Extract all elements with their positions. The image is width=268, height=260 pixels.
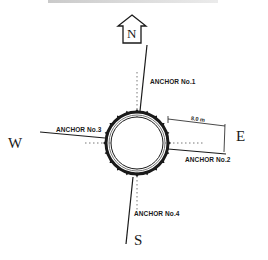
anchor-3-label: ANCHOR No.3: [56, 126, 102, 133]
west-label: W: [8, 135, 22, 152]
anchor-1-label: ANCHOR No.1: [150, 78, 196, 85]
anchor-line-2: [168, 149, 226, 154]
anchor-4-label: ANCHOR No.4: [134, 210, 180, 217]
anchor-2-label: ANCHOR No.2: [185, 156, 231, 163]
anchor-line-4: [126, 177, 133, 244]
buoy-ring: [103, 109, 171, 177]
south-label: S: [134, 232, 142, 249]
anchor-line-1: [140, 45, 147, 111]
north-letter: N: [127, 26, 136, 42]
anchor-layout-diagram: N E W S ANCHOR No.1 ANCHOR No.2 ANCHOR N…: [0, 0, 268, 260]
east-label: E: [236, 128, 245, 145]
